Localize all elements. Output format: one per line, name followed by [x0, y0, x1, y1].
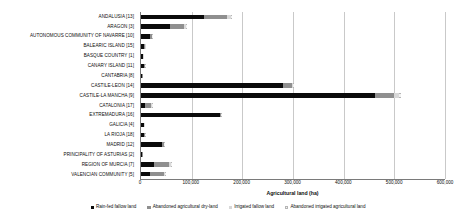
- bar-row: [141, 110, 445, 120]
- stacked-bar: [141, 74, 445, 79]
- y-axis-label: EXTREMADURA [16]: [0, 111, 137, 121]
- x-axis-tick-label: 100,000: [183, 181, 200, 186]
- legend-swatch-icon: [147, 206, 150, 209]
- legend-item[interactable]: Abandoned agricultural dry-land: [147, 205, 218, 210]
- bar-segment: [171, 162, 172, 167]
- bar-row: [141, 81, 445, 91]
- stacked-bar: [141, 172, 445, 177]
- bar-segment: [375, 93, 394, 98]
- bar-row: [141, 169, 445, 179]
- legend-item[interactable]: Abandoned irrigated agricultural land: [285, 205, 365, 210]
- legend-item[interactable]: Irrigated fallow land: [229, 205, 274, 210]
- bar-row: [141, 71, 445, 81]
- y-axis-label: GALICIA [4]: [0, 121, 137, 131]
- stacked-bar: [141, 15, 445, 20]
- stacked-bar: [141, 64, 445, 69]
- bar-segment: [141, 162, 154, 167]
- bar-rows: [141, 12, 445, 179]
- y-axis-label: AUTONOMOUS COMMUNITY OF NAVARRE [10]: [0, 32, 137, 42]
- x-axis-title: Agricultural land (ha): [140, 190, 445, 196]
- bar-segment: [165, 172, 166, 177]
- bar-row: [141, 61, 445, 71]
- legend-label: Irrigated fallow land: [234, 205, 274, 210]
- bar-row: [141, 159, 445, 169]
- bar-segment: [283, 83, 292, 88]
- bar-segment: [141, 24, 170, 29]
- plot-area: [140, 12, 445, 180]
- y-axis-label: BALEARIC ISLAND [15]: [0, 42, 137, 52]
- legend-swatch-icon: [229, 206, 232, 209]
- y-axis-label: MADRID [12]: [0, 140, 137, 150]
- stacked-bar: [141, 152, 445, 157]
- stacked-bar: [141, 93, 445, 98]
- legend-item[interactable]: Rain-fed fallow land: [91, 205, 137, 210]
- y-axis-label: REGION OF MURCIA [7]: [0, 160, 137, 170]
- legend-label: Rain-fed fallow land: [96, 205, 136, 210]
- legend-label: Abandoned irrigated agricultural land: [290, 205, 365, 210]
- bar-segment: [145, 103, 152, 108]
- bar-row: [141, 32, 445, 42]
- bar-segment: [399, 93, 401, 98]
- stacked-bar: [141, 54, 445, 59]
- chart-legend: Rain-fed fallow landAbandoned agricultur…: [0, 205, 456, 210]
- stacked-bar: [141, 123, 445, 128]
- bar-row: [141, 91, 445, 101]
- bar-row: [141, 51, 445, 61]
- bar-row: [141, 140, 445, 150]
- legend-swatch-icon: [91, 206, 94, 209]
- bar-row: [141, 22, 445, 32]
- bar-segment: [141, 142, 162, 147]
- stacked-bar: [141, 34, 445, 39]
- stacked-bar: [141, 24, 445, 29]
- stacked-bar: [141, 162, 445, 167]
- x-axis-tick-label: 0: [139, 181, 142, 186]
- bar-segment: [204, 15, 227, 20]
- bar-row: [141, 12, 445, 22]
- bar-segment: [231, 15, 233, 20]
- y-axis-label: CANTABRIA [8]: [0, 71, 137, 81]
- stacked-bar: [141, 103, 445, 108]
- bar-segment: [141, 83, 283, 88]
- y-axis-label: LA RIOJA [18]: [0, 131, 137, 141]
- bar-segment: [141, 15, 204, 20]
- bar-row: [141, 150, 445, 160]
- stacked-bar: [141, 44, 445, 49]
- stacked-bar: [141, 142, 445, 147]
- bar-segment: [186, 24, 187, 29]
- stacked-bar: [141, 83, 445, 88]
- y-axis-label: PRINCIPALITY OF ASTURIAS [2]: [0, 150, 137, 160]
- bar-row: [141, 120, 445, 130]
- bar-segment: [154, 162, 169, 167]
- x-axis-tick-label: 400,000: [335, 181, 352, 186]
- bar-segment: [141, 172, 150, 177]
- x-axis-tick-label: 600,000: [437, 181, 454, 186]
- legend-swatch-icon: [285, 206, 288, 209]
- y-axis-label: CASTILE-LEON [14]: [0, 81, 137, 91]
- gridline: [445, 12, 446, 179]
- y-axis-label: CATALONIA [17]: [0, 101, 137, 111]
- x-axis-tick-label: 300,000: [284, 181, 301, 186]
- x-axis-tick-label: 500,000: [386, 181, 403, 186]
- bar-segment: [141, 113, 220, 118]
- stacked-bar: [141, 133, 445, 138]
- y-axis-label: ARAGON [3]: [0, 22, 137, 32]
- bar-row: [141, 100, 445, 110]
- y-axis-label: ANDALUSIA [13]: [0, 12, 137, 22]
- bar-segment: [170, 24, 184, 29]
- y-axis-category-labels: ANDALUSIA [13]ARAGON [3]AUTONOMOUS COMMU…: [0, 12, 137, 180]
- stacked-bar: [141, 113, 445, 118]
- y-axis-label: CASTILE-LA MANCHA [9]: [0, 91, 137, 101]
- bar-row: [141, 41, 445, 51]
- bar-row: [141, 130, 445, 140]
- horizontal-bar-chart: ANDALUSIA [13]ARAGON [3]AUTONOMOUS COMMU…: [0, 0, 456, 224]
- bar-segment: [141, 93, 375, 98]
- x-axis-tick-label: 200,000: [233, 181, 250, 186]
- bar-segment: [141, 34, 150, 39]
- bar-segment: [150, 172, 164, 177]
- y-axis-label: BASQUE COUNTRY [1]: [0, 52, 137, 62]
- legend-label: Abandoned agricultural dry-land: [153, 205, 218, 210]
- y-axis-label: CANARY ISLAND [11]: [0, 61, 137, 71]
- y-axis-label: VALENCIAN COMMUNITY [5]: [0, 170, 137, 180]
- bar-segment: [293, 83, 294, 88]
